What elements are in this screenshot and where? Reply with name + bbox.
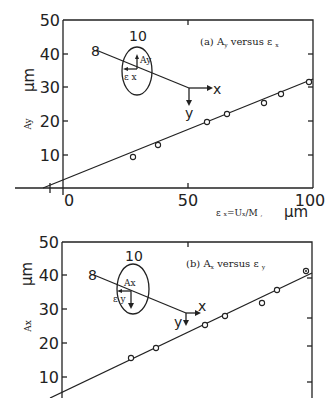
panel-a-ytick-20: 20 <box>40 112 60 131</box>
panel-a-ytick-10: 10 <box>40 146 60 165</box>
panel-a-ytick-40: 40 <box>40 45 60 64</box>
inset-ex-label: ε x <box>124 72 137 82</box>
inset-x-label: x <box>198 298 206 314</box>
panel-b-y-unit: μm <box>18 262 36 286</box>
panel-a-x-label: ε x=Ux/M , <box>216 208 263 218</box>
panel-a-xtick-50: 50 <box>178 191 198 210</box>
panel-b-ytick-40: 40 <box>39 266 59 285</box>
panel-a-x-unit: μm <box>284 203 308 221</box>
panel-b-markers <box>128 268 308 360</box>
down-arrowhead-icon <box>128 303 134 309</box>
panel-a-y-label: Ay <box>23 117 33 130</box>
panel-b-title: (b) Ax versus ε y <box>186 258 266 271</box>
inset-label-8: 8 <box>91 43 100 59</box>
figure: 50 40 30 20 10 μm Ay 0 50 100 ε x=Ux/M ,… <box>0 0 331 398</box>
panel-a-fit-line <box>43 79 313 188</box>
panel-b-ytick-20: 20 <box>39 334 59 353</box>
panel-b-ytick-10: 10 <box>39 368 59 387</box>
left-arrowhead-icon <box>123 67 128 71</box>
inset-ey-label: ε y <box>113 294 127 304</box>
panel-b-y-label: Ax <box>23 320 33 333</box>
rotation-ellipse <box>117 264 149 314</box>
panel-a-title: (a) Ay versus ε x <box>200 36 279 49</box>
inset-x-label: x <box>213 81 221 97</box>
panel-a-ytick-50: 50 <box>40 11 60 30</box>
panel-b-ytick-50: 50 <box>39 233 59 252</box>
panel-b: 50 40 30 20 10 μm Ax (b) Ax versus ε y <box>18 233 312 398</box>
y-arrowhead-icon <box>183 320 189 326</box>
panel-b-fit-line <box>50 273 312 398</box>
panel-a-ytick-30: 30 <box>40 78 60 97</box>
panel-a-y-unit: μm <box>20 68 38 92</box>
panel-a-xtick-0: 0 <box>64 191 74 210</box>
panel-b-ytick-30: 30 <box>39 300 59 319</box>
inset-Ay-label: Ay <box>139 55 152 65</box>
inset-Ax-label: Ax <box>123 278 136 288</box>
panel-a: 50 40 30 20 10 μm Ay 0 50 100 ε x=Ux/M ,… <box>15 11 325 221</box>
up-arrowhead-icon <box>135 54 139 59</box>
inset-beam-line <box>94 275 186 313</box>
inset-label-10: 10 <box>125 248 143 264</box>
inset-y-label: y <box>174 314 182 330</box>
inset-label-8: 8 <box>88 267 97 283</box>
inset-y-label: y <box>185 105 193 121</box>
inset-label-10: 10 <box>129 28 147 44</box>
